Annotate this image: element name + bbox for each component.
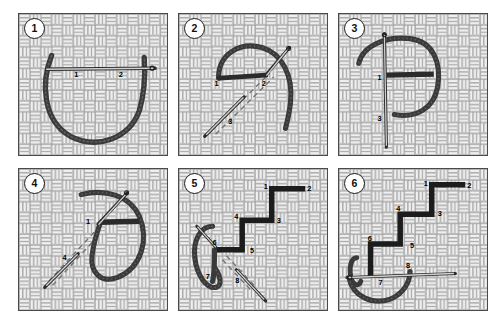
point-label: 5	[410, 241, 414, 250]
point-label: 4	[234, 212, 239, 221]
panel-number-badge: 1	[24, 18, 45, 39]
point-label: 2	[467, 181, 471, 190]
point-label: 6	[213, 238, 217, 247]
stitch-bar-4	[100, 221, 139, 222]
point-label: 8	[235, 276, 239, 285]
point-label: 4	[62, 253, 67, 262]
stitch-bar-2	[219, 75, 265, 78]
panel-number-badge: 4	[24, 173, 45, 194]
point-label: 5	[250, 246, 254, 255]
guide-line-b	[226, 256, 256, 288]
stitch-bar-3	[386, 74, 433, 75]
needle-highlight-5	[237, 271, 264, 300]
point-label: 2	[119, 70, 123, 79]
panel-number-badge: 2	[184, 18, 205, 39]
thread-loop-4	[81, 192, 143, 279]
point-label: 1	[378, 73, 382, 82]
panel-number-badge: 5	[184, 173, 205, 194]
panel-number-badge: 3	[344, 18, 365, 39]
point-label: 7	[206, 272, 210, 281]
guide-line-a	[49, 230, 96, 281]
point-label: 1	[424, 179, 428, 188]
point-label: 2	[262, 79, 266, 88]
point-label: 1	[74, 70, 78, 79]
panel-grid: 1 2 1 1	[18, 13, 488, 311]
panel-step-6[interactable]: 1 2 3 4 5 6 7 8 6	[338, 168, 488, 311]
staircase-stitch-5	[215, 189, 306, 250]
needle-highlight-2	[207, 98, 243, 134]
panel-number-badge: 6	[344, 173, 365, 194]
point-label: 2	[307, 184, 311, 193]
diagram-sheet: 1 2 1 1	[0, 0, 503, 324]
point-label: 6	[368, 234, 372, 243]
needle-highlight-1	[47, 68, 153, 69]
point-label: 1	[215, 79, 219, 88]
point-label: 3	[438, 209, 442, 218]
point-label: 7	[378, 278, 382, 287]
panel-step-1[interactable]: 1 2 1	[18, 13, 168, 156]
point-label: 1	[264, 182, 268, 191]
point-label: 3	[277, 216, 281, 225]
point-label: 8	[406, 261, 410, 270]
panel-step-5[interactable]: 1 2 3 4 5 6 7 8 5	[178, 168, 328, 311]
point-label: 3	[228, 117, 232, 126]
staircase-stitch-6	[371, 185, 466, 278]
point-label: 3	[378, 114, 382, 123]
panel-step-2[interactable]: 1 2 3 2	[178, 13, 328, 156]
panel-step-4[interactable]: 1 4 4	[18, 168, 168, 311]
point-label: 1	[86, 217, 90, 226]
panel-step-3[interactable]: 1 3 3	[338, 13, 488, 156]
